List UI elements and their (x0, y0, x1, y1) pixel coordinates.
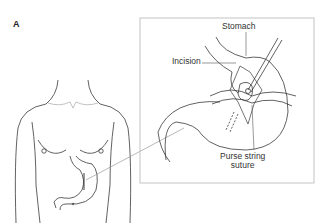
label-leaders (202, 32, 254, 150)
torso-illustration (15, 80, 130, 223)
label-purse-string-line2: suture (220, 161, 265, 170)
leader-line (86, 128, 184, 180)
label-incision: Incision (172, 57, 201, 66)
label-purse-string-suture: Purse string suture (220, 152, 265, 170)
diagram-canvas (0, 0, 324, 223)
label-stomach: Stomach (222, 22, 256, 31)
